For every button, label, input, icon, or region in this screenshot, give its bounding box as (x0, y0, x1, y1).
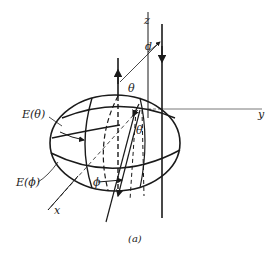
ellipsoid-coordinate-diagram: z y x d θ θ ϕ E(θ) E(ϕ) (a) (0, 0, 279, 258)
theta-inner-label: θ (136, 124, 143, 137)
d-dimension (120, 42, 160, 82)
theta-top-label: θ (128, 82, 135, 95)
z-axis-label: z (143, 14, 150, 27)
ellipsoid-outline (50, 95, 180, 191)
d-label: d (145, 40, 152, 53)
diagram-figure: z y x d θ θ ϕ E(θ) E(ϕ) (a) (0, 0, 279, 258)
e-phi-label: E(ϕ) (15, 176, 40, 189)
meridian (85, 98, 92, 188)
figure-caption: (a) (128, 233, 142, 244)
x-axis-label: x (54, 204, 61, 217)
equator (51, 150, 180, 168)
phi-label: ϕ (93, 176, 101, 189)
e-theta-label: E(θ) (21, 108, 45, 121)
y-axis-label: y (257, 108, 265, 121)
